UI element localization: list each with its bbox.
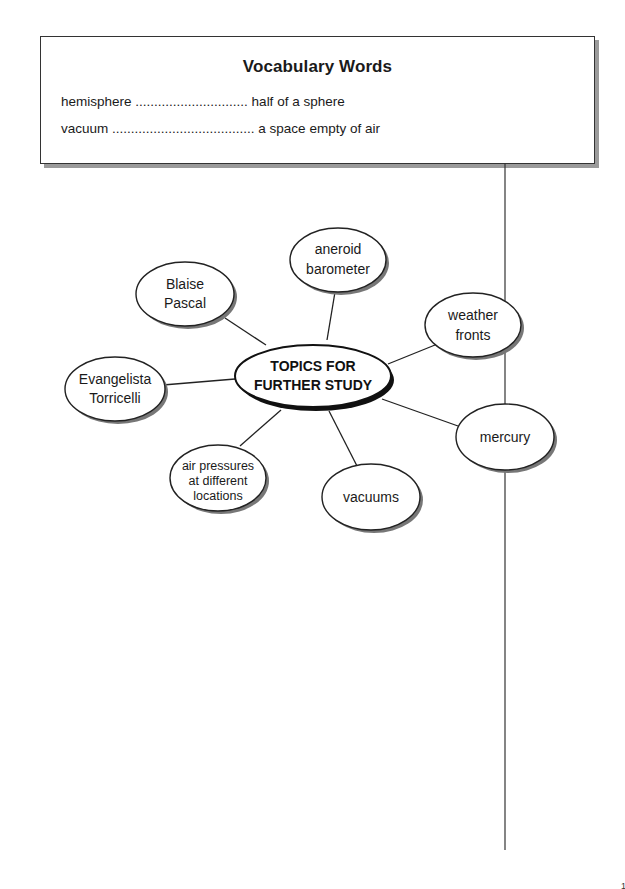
page-number: 1 xyxy=(621,881,625,889)
node-vacuums: vacuums xyxy=(322,464,423,533)
svg-text:mercury: mercury xyxy=(480,429,531,445)
svg-text:vacuums: vacuums xyxy=(343,489,399,505)
node-mercury: mercury xyxy=(456,404,557,473)
svg-text:Pascal: Pascal xyxy=(164,295,206,311)
svg-text:Torricelli: Torricelli xyxy=(89,390,140,406)
center-line-1: TOPICS FOR xyxy=(270,358,355,374)
svg-text:at different: at different xyxy=(189,474,248,488)
node-evangelista-torricelli: Evangelista Torricelli xyxy=(65,357,168,424)
node-air-pressures: air pressures at different locations xyxy=(170,445,269,514)
node-blaise-pascal: Blaise Pascal xyxy=(136,262,237,329)
svg-text:barometer: barometer xyxy=(306,261,370,277)
svg-text:locations: locations xyxy=(193,489,242,503)
svg-text:Evangelista: Evangelista xyxy=(79,371,152,387)
concept-map: TOPICS FOR FURTHER STUDY Blaise Pascal a… xyxy=(0,0,625,889)
svg-text:weather: weather xyxy=(447,307,498,323)
svg-text:air pressures: air pressures xyxy=(182,459,254,473)
center-node: TOPICS FOR FURTHER STUDY xyxy=(235,345,394,411)
node-weather-fronts: weather fronts xyxy=(425,293,524,360)
node-aneroid-barometer: aneroid barometer xyxy=(290,228,389,295)
svg-text:aneroid: aneroid xyxy=(315,241,362,257)
svg-text:Blaise: Blaise xyxy=(166,276,204,292)
svg-text:fronts: fronts xyxy=(455,327,490,343)
center-line-2: FURTHER STUDY xyxy=(254,377,373,393)
